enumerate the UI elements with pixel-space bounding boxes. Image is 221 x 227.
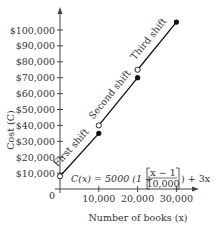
formula-left: C(x) = 5000 (1 + [71,173,153,184]
formula-denominator: 10,000 [146,178,179,189]
closed-endpoint-icon [96,131,101,136]
x-tick-label: 20,000 [121,193,154,204]
y-tick-label: $40,000 [16,120,55,131]
y-tick-label: $100,000 [10,25,55,36]
data-series: First shiftSecond shiftThird shift [51,15,179,178]
y-tick-label: $20,000 [16,152,55,163]
origin-label: 0 [49,190,55,201]
x-tick-label: 10,000 [82,193,115,204]
open-endpoint-icon [57,174,62,179]
cost-chart: $10,000$20,000$30,000$40,000$50,000$60,0… [0,0,221,227]
formula: C(x) = 5000 (1 + x − 1 10,000 ) + 3x [71,167,211,189]
y-tick-label: $70,000 [16,72,55,83]
y-tick-label: $90,000 [16,40,55,51]
y-tick-label: $10,000 [16,168,55,179]
y-axis-label: Cost (C) [5,110,16,149]
y-tick-label: $60,000 [16,88,55,99]
open-endpoint-icon [135,67,140,72]
formula-right: ) + 3x [181,173,211,184]
closed-endpoint-icon [174,19,179,24]
closed-endpoint-icon [135,75,140,80]
x-axis-arrow-icon [192,187,199,192]
open-endpoint-icon [96,123,101,128]
formula-numerator: x − 1 [150,167,175,178]
x-axis-label: Number of books (x) [89,212,188,223]
x-tick-label: 30,000 [160,193,193,204]
y-axis-arrow-icon [58,7,63,14]
y-tick-label: $80,000 [16,56,55,67]
y-tick-label: $50,000 [16,104,55,115]
shift-label: First shift [51,126,91,169]
y-tick-label: $30,000 [16,136,55,147]
